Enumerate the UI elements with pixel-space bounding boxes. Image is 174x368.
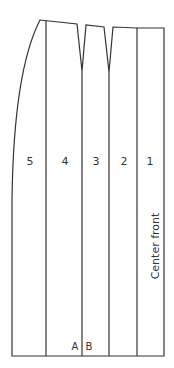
panel-label-2: 2	[121, 155, 128, 168]
panel-label-4: 4	[62, 155, 69, 168]
panel-label-1: 1	[147, 155, 154, 168]
panel-label-5: 5	[27, 155, 34, 168]
pattern-outline	[12, 20, 164, 356]
point-a-label: A	[72, 341, 79, 352]
skirt-pattern-diagram: 5 4 3 2 1 Center front A B	[0, 0, 174, 368]
panel-label-3: 3	[93, 155, 100, 168]
point-b-label: B	[86, 341, 93, 352]
center-front-label: Center front	[149, 212, 162, 279]
